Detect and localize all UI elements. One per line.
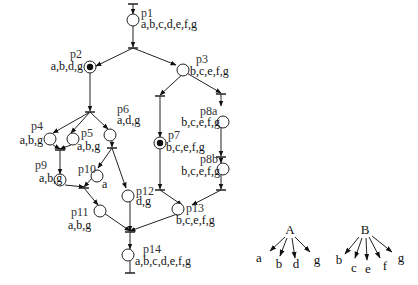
tree-b-leaf: f bbox=[383, 258, 388, 273]
place-label: a,b,c,d,e,f,g bbox=[141, 17, 197, 31]
place-name: p5 bbox=[81, 126, 93, 140]
place-label: a,b,c,d,e,f,g bbox=[135, 254, 191, 268]
tree-a-leaf: d bbox=[293, 256, 300, 271]
place-name: p11 bbox=[71, 205, 89, 219]
tree-a-leaf: g bbox=[314, 252, 321, 267]
place-p13: p13 b,c,e,f,g bbox=[172, 201, 215, 227]
place-label: a,b,g bbox=[20, 133, 43, 147]
place-p8b: p8b b,c,e,f,g bbox=[181, 152, 229, 178]
place-label: b,c,e,f,g bbox=[176, 213, 215, 227]
places: p1 a,b,c,d,e,f,g p2 a,b,d,g p3 b,c,e,f,g… bbox=[20, 6, 229, 268]
place-p8a: p8a b,c,e,f,g bbox=[181, 104, 229, 129]
place-p7: p7 b,c,e,f,g bbox=[154, 128, 205, 154]
place-label: a,b,d,g bbox=[51, 59, 83, 73]
tree-b-leaf: e bbox=[365, 261, 371, 276]
place-p9: p9 a,b,g bbox=[35, 158, 66, 186]
tree-b-leaf: b bbox=[336, 252, 343, 267]
tree-b-root: B bbox=[361, 222, 370, 237]
token bbox=[157, 140, 163, 146]
place-p14: p14 a,b,c,d,e,f,g bbox=[122, 242, 191, 268]
petri-net-diagram: p1 a,b,c,d,e,f,g p2 a,b,d,g p3 b,c,e,f,g… bbox=[0, 0, 418, 285]
place-name: p9 bbox=[35, 158, 47, 172]
place-p5: p5 a,b,g bbox=[67, 126, 100, 153]
place-label: b,c,e,f,g bbox=[166, 140, 205, 154]
place-label: a bbox=[102, 177, 108, 191]
tree-a-leaf: b bbox=[276, 256, 283, 271]
place-p11: p11 a,b,g bbox=[68, 205, 106, 232]
place-label: a,d,g bbox=[117, 113, 140, 127]
place-name: p4 bbox=[31, 119, 43, 133]
place-label: a,b,g bbox=[77, 139, 100, 153]
token bbox=[87, 64, 93, 70]
place-label: b,c,e,f,g bbox=[181, 115, 220, 129]
tree-a-root: A bbox=[285, 222, 295, 237]
tree-a-leaf: a bbox=[256, 250, 262, 265]
place-p12: p12 d,g bbox=[122, 184, 154, 208]
place-p3: p3 b,c,e,f,g bbox=[177, 52, 229, 78]
place-label: a,b,g bbox=[39, 171, 62, 185]
tree-b-leaf: g bbox=[398, 250, 405, 265]
tree-a: A a b d g bbox=[256, 222, 321, 271]
place-label: a,b,g bbox=[68, 218, 91, 232]
place-p6: p6 a,d,g bbox=[104, 102, 140, 141]
place-p2: p2 a,b,d,g bbox=[51, 47, 96, 73]
place-name: p10 bbox=[78, 162, 96, 176]
tree-b: B b c e f g bbox=[336, 222, 405, 276]
tree-b-leaf: c bbox=[351, 260, 357, 275]
place-label: d,g bbox=[136, 194, 151, 208]
place-p4: p4 a,b,g bbox=[20, 119, 56, 147]
place-label: b,c,e,f,g bbox=[181, 164, 220, 178]
place-label: b,c,e,f,g bbox=[190, 64, 229, 78]
place-p1: p1 a,b,c,d,e,f,g bbox=[127, 6, 197, 31]
